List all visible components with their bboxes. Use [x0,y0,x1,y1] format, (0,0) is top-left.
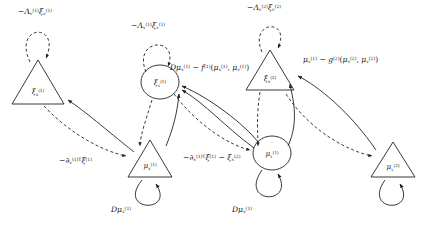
edge-mu-x-1-to-xi-x-1 [182,90,254,148]
node-label-mu-v-1: μv(1) [143,162,156,169]
edge-xi-x-1-to-mu-v-1 [140,100,152,146]
edge-selfloop-xi-v-2 [259,27,281,52]
edge-selfloop-mu-v-1 [135,180,160,205]
edge-mu-v-1-to-xi-x-1 [166,94,179,146]
edge-xi-v-2-to-mu-x-2 [286,94,372,156]
edge-label-lambda-v-1: −Λv(1)ξv(1) [18,8,52,16]
edge-label-lambda-x-1: −Λx(1)ξx(1) [131,22,165,30]
edge-label-lambda-v-2: −Λv(2)ξv(2) [247,4,281,12]
edge-label-gv-xi: −∂v(1)Tξ(1) [59,157,92,165]
node-label-xi-x-1: ξx(1) [154,79,167,86]
node-mu-x-2-shape [371,142,415,177]
edge-selfloop-xi-x-1 [143,45,170,72]
edge-mu-x-2-to-xi-v-2 [298,76,376,150]
edge-label-gx-xi: −∂x(1)Tξ(1) − ξx(2) [183,154,240,162]
diagram-canvas: ξv(1) ξx(1) ξv(2) μv(1) μx(1) μx(2) −Λv(… [0,0,426,232]
edge-label-mu-minus-g: μv(1) − g(2)(μx(2), μv(2)) [303,56,378,64]
edge-selfloop-mu-x-2 [379,180,403,205]
edge-mu-x-1-to-xi-v-2 [288,84,294,146]
diagram-graphics [0,0,426,232]
node-xi-v-1-shape [12,60,64,104]
edge-mu-v-1-to-xi-v-1 [68,100,134,152]
node-label-mu-x-2: μx(2) [386,163,399,170]
edge-selfloop-mu-x-1 [256,170,281,197]
edge-mu-x-1-to-xi-x-1-b [182,86,258,142]
edge-label-dmu-minus-f: Dμx(1) − f(1)(μx(1), μv(1)) [170,64,249,72]
node-mu-v-1-shape [128,140,172,177]
node-xi-v-2-shape [246,50,294,90]
edge-label-dmu-v-1: Dμv(1) [111,206,131,214]
edge-selfloop-xi-v-1 [26,32,49,62]
node-label-xi-v-2: ξv(2) [264,75,277,82]
edge-xi-v-2-to-mu-x-1 [258,92,261,146]
edge-label-dmu-x-1: Dμx(1) [232,206,252,214]
node-label-mu-x-1: μx(1) [265,150,278,157]
edge-xi-v-1-to-mu-v-1 [44,106,126,156]
node-label-xi-v-1: ξv(1) [32,88,45,95]
